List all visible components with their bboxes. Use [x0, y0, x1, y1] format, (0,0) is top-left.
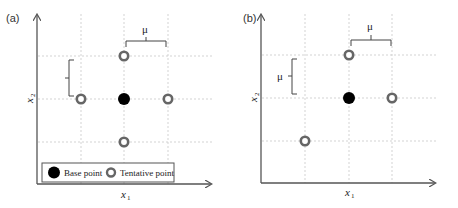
- svg-text:x: x: [23, 98, 35, 104]
- panel-a-x-axis-label: x 1: [120, 188, 131, 202]
- panel-b-tentative-point: [301, 137, 309, 145]
- svg-text:x: x: [344, 186, 350, 198]
- panel-b-step-brace-horizontal: [351, 35, 391, 46]
- legend-tentative-point-icon: [107, 169, 115, 177]
- legend-tentative-label: Tentative point: [120, 168, 175, 178]
- panel-a-tentative-point: [77, 95, 85, 103]
- panel-a-step-label-top: μ: [142, 23, 148, 35]
- panel-b-tentative-point: [388, 94, 396, 102]
- panel-b-x-axis-label: x 1: [344, 186, 355, 200]
- panel-b-step-label-left: μ: [277, 70, 283, 82]
- svg-text:x: x: [120, 188, 126, 200]
- panel-a-step-brace-vertical: [65, 60, 74, 96]
- panel-b-y-axis-label: x 2: [247, 92, 261, 103]
- legend-base-point-icon: [48, 167, 60, 179]
- panel-a-step-brace-horizontal: [126, 37, 166, 47]
- panel-b-step-brace-vertical: [288, 59, 297, 94]
- legend: Base point Tentative point: [42, 163, 175, 182]
- panel-b: (b) x 1 x 2 μ μ: [243, 12, 436, 200]
- panel-b-label: (b): [243, 12, 256, 24]
- panel-a-base-point: [118, 93, 130, 105]
- panel-a-tentative-point: [164, 95, 172, 103]
- panel-a: (a) x 1 x 2 μ: [6, 12, 212, 202]
- panel-b-step-label-top: μ: [367, 20, 373, 32]
- svg-text:2: 2: [29, 93, 37, 97]
- panel-b-base-point: [343, 92, 355, 104]
- panel-a-label: (a): [6, 12, 19, 24]
- svg-text:1: 1: [351, 192, 355, 200]
- panel-a-y-axis-label: x 2: [23, 93, 37, 104]
- svg-text:2: 2: [253, 92, 261, 96]
- svg-text:x: x: [247, 97, 259, 103]
- legend-base-label: Base point: [64, 168, 103, 178]
- svg-text:1: 1: [127, 194, 131, 202]
- hooke-jeeves-diagram: (a) x 1 x 2 μ: [0, 0, 458, 208]
- panel-a-tentative-point: [120, 138, 128, 146]
- panel-b-tentative-point: [345, 51, 353, 59]
- panel-a-tentative-point: [120, 52, 128, 60]
